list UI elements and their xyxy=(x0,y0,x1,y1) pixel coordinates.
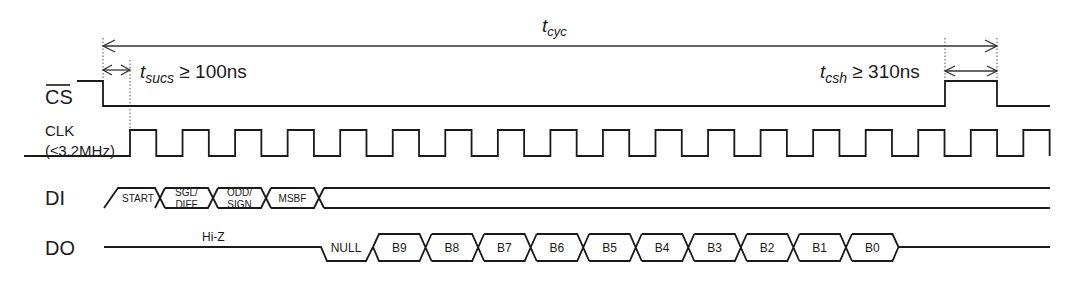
t-cyc-arrow xyxy=(103,40,997,52)
clk-waveform xyxy=(24,130,1050,156)
di-label: DI xyxy=(45,187,65,209)
di-cell-label: ODD/ xyxy=(227,187,252,198)
do-bit-label: B7 xyxy=(497,241,512,255)
do-label: DO xyxy=(45,237,75,259)
t-cyc-label: tcyc xyxy=(542,15,567,39)
clk-label-line1: CLK xyxy=(45,122,74,139)
do-waveform: NULLB9B8B7B6B5B4B3B2B1B0 xyxy=(104,234,1050,261)
do-bit-label: B3 xyxy=(707,241,722,255)
t-csh-arrow xyxy=(945,66,997,76)
di-waveform: STARTSGL/DIFFODD/SIGNMSBF xyxy=(104,187,1050,210)
cs-label-text: CS xyxy=(45,86,73,108)
do-bit-label: B1 xyxy=(812,241,827,255)
di-cell-label: START xyxy=(122,193,154,204)
cs-waveform xyxy=(77,81,1050,106)
do-bit-label: B5 xyxy=(602,241,617,255)
do-bit-label: B0 xyxy=(865,241,880,255)
do-bit-label: B8 xyxy=(444,241,459,255)
t-sucs-arrow xyxy=(103,65,130,75)
di-cell-label: SGL/ xyxy=(175,187,198,198)
cs-label: CS xyxy=(45,85,73,108)
do-null-label: NULL xyxy=(331,241,362,255)
t-csh-label: tcsh ≥ 310ns xyxy=(820,61,920,86)
di-cell-label: MSBF xyxy=(279,193,307,204)
do-hiz-label: Hi-Z xyxy=(202,230,225,244)
spi-timing-diagram: CS CLK (≤3.2MHz) DI DO tcyc tsucs ≥ 100n… xyxy=(0,0,1079,288)
do-bit-label: B2 xyxy=(760,241,775,255)
do-bit-label: B4 xyxy=(655,241,670,255)
di-dont-care-bus xyxy=(324,188,1050,208)
di-cell-label: SIGN xyxy=(227,199,251,210)
t-sucs-label: tsucs ≥ 100ns xyxy=(140,61,247,86)
do-bit-label: B9 xyxy=(392,241,407,255)
di-cell-label: DIFF xyxy=(175,199,197,210)
do-bit-label: B6 xyxy=(550,241,565,255)
